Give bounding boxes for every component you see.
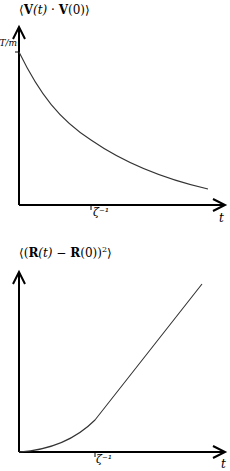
top-plot (13, 27, 225, 211)
bottom-plot (13, 272, 225, 458)
top-decay-curve (19, 52, 208, 189)
bottom-msd-curve (19, 284, 202, 452)
plots-canvas (0, 0, 230, 471)
